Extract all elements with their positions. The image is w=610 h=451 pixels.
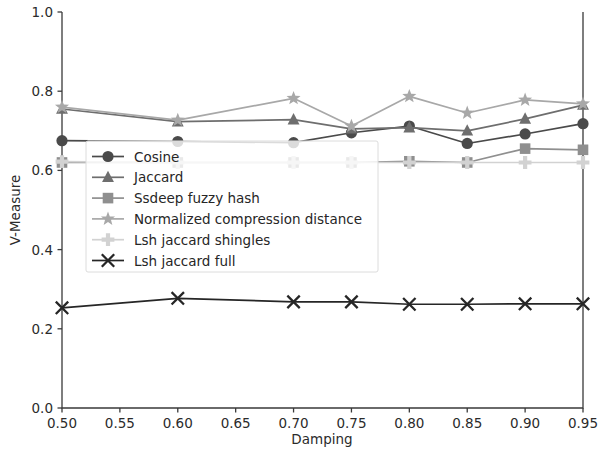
y-tick-label: 0.8 [32,83,53,99]
data-point [518,93,532,106]
data-point [462,138,473,149]
y-tick-label: 0.0 [32,400,53,416]
series-line [62,105,583,131]
y-axis-title: V-Measure [7,175,23,246]
x-tick-label: 0.95 [568,415,598,431]
x-tick-label: 0.90 [510,415,540,431]
x-tick-label: 0.80 [394,415,424,431]
y-tick-label: 0.4 [32,242,53,258]
legend-label: Ssdeep fuzzy hash [134,190,260,206]
data-point [577,156,590,169]
data-point [56,135,67,146]
legend-marker-circle-icon [102,151,113,162]
data-point [287,91,301,104]
data-point [577,118,588,129]
line-chart: 0.500.550.600.650.700.750.800.850.900.95… [0,0,610,451]
x-tick-label: 0.50 [47,415,77,431]
legend-marker-square-icon [103,193,114,204]
x-axis-ticks: 0.500.550.600.650.700.750.800.850.900.95 [47,408,598,431]
x-tick-label: 0.85 [452,415,482,431]
legend-item-lsh-jaccard-full[interactable]: Lsh jaccard full [92,253,236,269]
legend-label: Jaccard [133,169,183,185]
x-tick-label: 0.75 [336,415,366,431]
data-point [519,156,532,169]
series-line [62,96,583,126]
legend-label: Normalized compression distance [134,211,362,227]
x-tick-label: 0.70 [279,415,309,431]
legend-label: Lsh jaccard shingles [134,232,270,248]
chart-figure: 0.500.550.600.650.700.750.800.850.900.95… [0,0,610,451]
y-tick-label: 0.6 [32,162,53,178]
data-point [460,106,474,119]
series-lsh-jaccard-full [56,292,589,314]
x-axis-title: Damping [291,431,352,447]
data-point [402,89,416,102]
y-axis-ticks: 0.00.20.40.60.81.0 [32,4,62,416]
y-tick-label: 1.0 [32,4,53,20]
data-point [520,143,531,154]
data-point [520,128,531,139]
data-point [578,145,589,156]
series-normalized-compression-distance [55,89,590,132]
x-tick-label: 0.55 [105,415,135,431]
series-line [62,298,583,308]
y-tick-label: 0.2 [32,321,53,337]
legend-label: Cosine [134,149,179,165]
x-tick-label: 0.65 [221,415,251,431]
x-tick-label: 0.60 [163,415,193,431]
chart-legend: CosineJaccardSsdeep fuzzy hashNormalized… [86,141,378,272]
data-point [288,113,300,124]
legend-label: Lsh jaccard full [134,253,236,269]
